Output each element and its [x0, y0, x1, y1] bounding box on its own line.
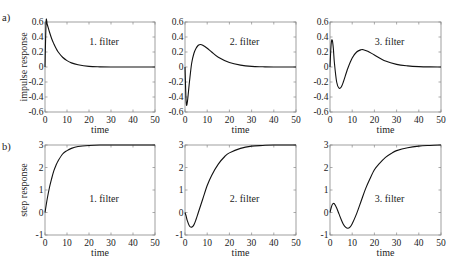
- y-tick-label: -0.2: [168, 77, 183, 87]
- subplot-a-3: 01020304050-0.6-0.4-0.200.20.40.6time3. …: [313, 17, 446, 135]
- y-tick-label: 1: [39, 185, 44, 195]
- subplot-b-1: 01020304050-10123time1. filter: [36, 140, 160, 258]
- subplot-a-1: 01020304050-0.6-0.4-0.200.20.40.6time1. …: [28, 17, 160, 135]
- x-tick-label: 10: [347, 238, 357, 248]
- x-tick-label: 50: [150, 238, 160, 248]
- y-tick-label: -0.4: [28, 92, 43, 102]
- panel-label-b: b): [2, 141, 11, 153]
- x-tick-label: 50: [291, 238, 301, 248]
- y-tick-label: 0: [324, 62, 329, 72]
- y-tick-label: -0.4: [313, 92, 328, 102]
- filter-annotation: 1. filter: [89, 36, 119, 47]
- filter-annotation: 2. filter: [230, 36, 260, 47]
- y-tick-label: 0.6: [172, 17, 184, 27]
- y-tick-label: -1: [176, 230, 184, 240]
- y-tick-label: -0.2: [28, 77, 43, 87]
- x-axis-label: time: [377, 124, 395, 135]
- x-tick-label: 40: [269, 238, 279, 248]
- y-tick-label: 0: [179, 208, 184, 218]
- subplot-b-3: 01020304050-10123time3. filter: [321, 140, 446, 258]
- y-tick-label: 0.2: [317, 47, 329, 57]
- y-tick-label: 0.2: [172, 47, 184, 57]
- y-tick-label: -0.2: [313, 77, 328, 87]
- y-tick-label: 3: [324, 140, 329, 150]
- x-tick-label: 40: [128, 115, 138, 125]
- y-tick-label: 0.6: [32, 17, 44, 27]
- response-curve: [330, 40, 441, 89]
- response-curve: [185, 145, 296, 227]
- y-tick-label: 0.6: [317, 17, 329, 27]
- x-tick-label: 50: [436, 238, 446, 248]
- x-tick-label: 10: [62, 238, 72, 248]
- response-curve: [185, 45, 296, 106]
- y-tick-label: 3: [39, 140, 44, 150]
- filter-annotation: 3. filter: [375, 193, 405, 204]
- y-tick-label: 0: [39, 62, 44, 72]
- y-tick-label: 1: [179, 185, 184, 195]
- y-tick-label: -0.6: [313, 107, 328, 117]
- y-tick-label: 0.4: [32, 32, 44, 42]
- subplot-a-2: 01020304050-0.6-0.4-0.200.20.40.6time2. …: [168, 17, 301, 135]
- ylabel-step-response: step response: [18, 163, 29, 217]
- y-tick-label: 2: [39, 163, 44, 173]
- x-axis-label: time: [232, 247, 250, 258]
- y-tick-label: -0.6: [168, 107, 183, 117]
- axes-frame: [330, 145, 441, 235]
- response-curve: [330, 145, 441, 228]
- x-tick-label: 40: [414, 115, 424, 125]
- y-tick-label: -1: [321, 230, 329, 240]
- plot-grid: 01020304050-0.6-0.4-0.200.20.40.6time1. …: [28, 17, 446, 258]
- x-tick-label: 40: [269, 115, 279, 125]
- x-axis-label: time: [232, 124, 250, 135]
- panel-label-a: a): [2, 12, 11, 24]
- x-tick-label: 10: [347, 115, 357, 125]
- y-tick-label: -1: [36, 230, 44, 240]
- figure: a) b) impulse response step response 010…: [0, 0, 455, 271]
- filter-annotation: 3. filter: [375, 36, 405, 47]
- ylabel-impulse-response: impulse response: [18, 32, 29, 102]
- x-tick-label: 50: [291, 115, 301, 125]
- filter-annotation: 1. filter: [89, 193, 119, 204]
- y-tick-label: 2: [324, 163, 329, 173]
- y-tick-label: 3: [179, 140, 184, 150]
- x-axis-label: time: [377, 247, 395, 258]
- x-tick-label: 40: [414, 238, 424, 248]
- y-tick-label: 0: [39, 208, 44, 218]
- y-tick-label: 0: [179, 62, 184, 72]
- y-tick-label: 0.2: [32, 47, 44, 57]
- x-tick-label: 50: [150, 115, 160, 125]
- y-tick-label: 0: [324, 208, 329, 218]
- x-tick-label: 40: [128, 238, 138, 248]
- y-tick-label: 1: [324, 185, 329, 195]
- x-axis-label: time: [91, 124, 109, 135]
- axes-frame: [45, 145, 155, 235]
- subplot-b-2: 01020304050-10123time2. filter: [176, 140, 301, 258]
- x-axis-label: time: [91, 247, 109, 258]
- axes-frame: [185, 145, 296, 235]
- y-tick-label: -0.4: [168, 92, 183, 102]
- x-tick-label: 10: [202, 238, 212, 248]
- x-tick-label: 10: [202, 115, 212, 125]
- x-tick-label: 10: [62, 115, 72, 125]
- y-tick-label: -0.6: [28, 107, 43, 117]
- y-tick-label: 0.4: [317, 32, 329, 42]
- y-tick-label: 0.4: [172, 32, 184, 42]
- y-tick-label: 2: [179, 163, 184, 173]
- filter-annotation: 2. filter: [230, 193, 260, 204]
- x-tick-label: 50: [436, 115, 446, 125]
